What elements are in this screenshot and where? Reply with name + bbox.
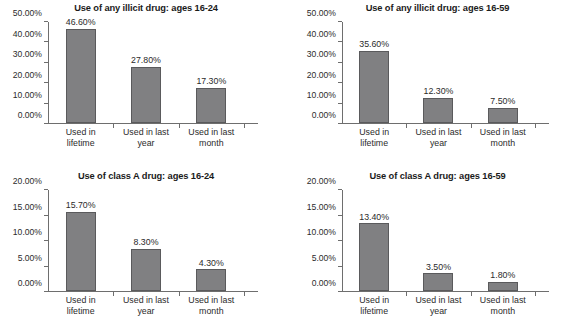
bar-slot: 12.30% xyxy=(406,22,470,123)
chart-panel: Use of class A drug: ages 16-590.00%5.00… xyxy=(292,168,583,335)
x-axis-tick xyxy=(535,124,536,128)
plot-area: 0.00%10.00%20.00%30.00%40.00%50.00%46.60… xyxy=(48,22,244,124)
bar-slot: 3.50% xyxy=(406,190,470,291)
category-label-line2: lifetime xyxy=(48,138,113,149)
x-axis-category-labels: Used inlifetimeUsed in lastyearUsed in l… xyxy=(342,127,535,149)
y-axis-tick-label: 20.00% xyxy=(13,177,42,186)
bar-value-label: 8.30% xyxy=(134,238,159,247)
category-label-line1: Used in xyxy=(48,127,113,138)
y-axis-tick-label: 30.00% xyxy=(13,50,42,59)
bar-slot: 27.80% xyxy=(113,22,178,123)
bar-series: 13.40%3.50%1.80% xyxy=(342,190,535,291)
category-label-line1: Used in xyxy=(48,295,113,306)
bar-series: 35.60%12.30%7.50% xyxy=(342,22,535,123)
category-label-line2: year xyxy=(113,138,178,149)
x-axis-category-label: Used in lastmonth xyxy=(471,295,535,317)
category-label-line2: year xyxy=(113,306,178,317)
x-axis-category-label: Used in lastyear xyxy=(406,295,470,317)
bar xyxy=(131,249,161,291)
chart-title: Use of class A drug: ages 16-24 xyxy=(0,171,292,181)
y-axis-tick xyxy=(338,123,342,124)
category-label-line2: year xyxy=(406,306,470,317)
chart-title: Use of any illicit drug: ages 16-24 xyxy=(0,3,292,13)
x-axis-category-labels: Used inlifetimeUsed in lastyearUsed in l… xyxy=(48,295,244,317)
category-label-line2: month xyxy=(471,306,535,317)
x-axis-category-label: Used in lastyear xyxy=(113,127,178,149)
y-axis-tick xyxy=(44,291,48,292)
x-axis-tick xyxy=(535,292,536,296)
category-label-line1: Used in last xyxy=(179,295,244,306)
bar-slot: 35.60% xyxy=(342,22,406,123)
y-axis-tick-label: 0.00% xyxy=(18,111,42,120)
x-axis-tick xyxy=(244,124,245,128)
y-axis-tick-label: 50.00% xyxy=(13,9,42,18)
x-axis-category-label: Used inlifetime xyxy=(342,295,406,317)
bar xyxy=(488,282,518,291)
x-axis-category-label: Used inlifetime xyxy=(48,295,113,317)
category-label-line1: Used in last xyxy=(471,295,535,306)
bar-slot: 1.80% xyxy=(471,190,535,291)
x-axis-category-label: Used inlifetime xyxy=(342,127,406,149)
category-label-line1: Used in last xyxy=(113,295,178,306)
bar-value-label: 17.30% xyxy=(196,77,226,86)
x-axis-extension xyxy=(535,123,549,124)
bar xyxy=(196,269,226,291)
y-axis-tick-label: 0.00% xyxy=(312,111,336,120)
chart-grid: Use of any illicit drug: ages 16-240.00%… xyxy=(0,0,583,335)
x-axis-extension xyxy=(244,291,258,292)
chart-panel: Use of any illicit drug: ages 16-590.00%… xyxy=(292,0,583,168)
bar xyxy=(488,108,518,123)
bar-slot: 4.30% xyxy=(179,190,244,291)
bar xyxy=(66,212,96,291)
y-axis-tick-label: 0.00% xyxy=(312,279,336,288)
bar-slot: 7.50% xyxy=(471,22,535,123)
x-axis-category-label: Used in lastmonth xyxy=(179,127,244,149)
bar xyxy=(423,98,453,123)
x-axis-line xyxy=(48,123,244,124)
x-axis-line xyxy=(342,123,535,124)
bar-series: 46.60%27.80%17.30% xyxy=(48,22,244,123)
category-label-line2: lifetime xyxy=(48,306,113,317)
bar-value-label: 46.60% xyxy=(66,18,96,27)
category-label-line1: Used in xyxy=(342,295,406,306)
y-axis-tick-label: 20.00% xyxy=(307,70,336,79)
category-label-line2: lifetime xyxy=(342,306,406,317)
x-axis-category-labels: Used inlifetimeUsed in lastyearUsed in l… xyxy=(342,295,535,317)
x-axis-category-labels: Used inlifetimeUsed in lastyearUsed in l… xyxy=(48,127,244,149)
bar xyxy=(359,51,389,123)
plot-area: 0.00%5.00%10.00%15.00%20.00%13.40%3.50%1… xyxy=(342,190,535,292)
category-label-line1: Used in last xyxy=(471,127,535,138)
y-axis-tick-label: 0.00% xyxy=(18,279,42,288)
category-label-line2: month xyxy=(179,306,244,317)
bar-value-label: 15.70% xyxy=(66,201,96,210)
plot-area: 0.00%5.00%10.00%15.00%20.00%15.70%8.30%4… xyxy=(48,190,244,292)
category-label-line1: Used in xyxy=(342,127,406,138)
category-label-line2: lifetime xyxy=(342,138,406,149)
bar-slot: 15.70% xyxy=(48,190,113,291)
y-axis-tick-label: 5.00% xyxy=(312,254,336,263)
bar xyxy=(66,29,96,123)
bar-value-label: 27.80% xyxy=(131,56,161,65)
x-axis-extension xyxy=(244,123,258,124)
bar-value-label: 7.50% xyxy=(490,97,515,106)
bar-slot: 13.40% xyxy=(342,190,406,291)
category-label-line1: Used in last xyxy=(406,127,470,138)
category-label-line1: Used in last xyxy=(179,127,244,138)
y-axis-tick xyxy=(338,291,342,292)
category-label-line2: month xyxy=(179,138,244,149)
y-axis-tick-label: 10.00% xyxy=(13,91,42,100)
bar-value-label: 12.30% xyxy=(424,87,454,96)
category-label-line2: year xyxy=(406,138,470,149)
y-axis-tick-label: 10.00% xyxy=(307,91,336,100)
chart-panel: Use of class A drug: ages 16-240.00%5.00… xyxy=(0,168,292,335)
x-axis-category-label: Used in lastmonth xyxy=(471,127,535,149)
x-axis-tick xyxy=(244,292,245,296)
chart-panel: Use of any illicit drug: ages 16-240.00%… xyxy=(0,0,292,168)
x-axis-category-label: Used inlifetime xyxy=(48,127,113,149)
bar-value-label: 35.60% xyxy=(359,40,389,49)
y-axis-tick-label: 20.00% xyxy=(13,70,42,79)
bar xyxy=(423,273,453,291)
x-axis-line xyxy=(48,291,244,292)
category-label-line2: month xyxy=(471,138,535,149)
y-axis-tick xyxy=(44,123,48,124)
